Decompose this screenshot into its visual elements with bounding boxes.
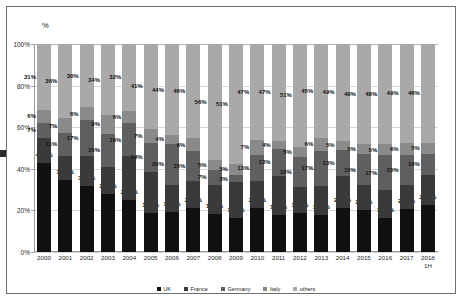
bar-column[interactable]: 41.7%12%7%6%31% <box>37 44 51 252</box>
bar-segment-germany[interactable]: 17% <box>314 151 328 187</box>
bar-segment-italy[interactable]: 4% <box>272 141 286 149</box>
bar-segment-uk[interactable]: 19.2% <box>293 213 307 252</box>
x-axis-tick-label: 2008 <box>208 254 222 280</box>
bar-segment-italy[interactable]: 6% <box>186 138 200 150</box>
bar-segment-france[interactable]: 13% <box>101 167 115 194</box>
bar-column[interactable]: 21.4%13%15%6%46% <box>186 44 200 252</box>
bar-segment-others[interactable]: 31% <box>37 44 51 110</box>
bar-column[interactable]: 18.9%20%14%7%41% <box>144 44 158 252</box>
y-axis-unit-label: % <box>42 21 49 30</box>
bar-segment-germany[interactable]: 15% <box>400 155 414 185</box>
bar-segment-france[interactable]: 14% <box>80 156 94 186</box>
bar-segment-uk[interactable]: 27.7% <box>101 194 115 252</box>
bar-segment-france[interactable]: 14% <box>314 186 328 215</box>
bar-column[interactable]: 24.9%21%16%6%32% <box>122 44 136 252</box>
bar-segment-label: 5% <box>369 147 378 153</box>
bar-segment-label: 51% <box>280 92 292 98</box>
legend-item[interactable]: UK <box>157 286 171 292</box>
bar-column[interactable]: 18.6%14%7%5%56% <box>208 44 222 252</box>
bar-segment-uk[interactable]: 21.9% <box>421 205 435 252</box>
bar-segment-others[interactable]: 51% <box>293 44 307 147</box>
legend-swatch <box>293 287 297 291</box>
bar-segment-france[interactable]: 13% <box>293 187 307 213</box>
bar-segment-uk[interactable]: 21.6% <box>250 208 264 252</box>
bar-segment-uk[interactable]: 20.7% <box>357 210 371 252</box>
bar-segment-germany[interactable]: 16% <box>122 123 136 156</box>
bar-stack: 19.2%13%15%5%51% <box>293 44 307 252</box>
bar-segment-label: 15% <box>173 163 185 169</box>
bar-segment-france[interactable]: 16% <box>336 176 350 208</box>
bar-segment-uk[interactable]: 18.2% <box>272 215 286 252</box>
bar-segment-label: 13% <box>237 165 249 171</box>
bar-segment-france[interactable]: 20% <box>144 172 158 213</box>
x-axis-tick-label: 2018 1H <box>421 254 435 280</box>
bar-segment-france[interactable]: 13% <box>186 181 200 208</box>
bar-segment-label: 4% <box>262 142 271 148</box>
bar-segment-others[interactable]: 46% <box>421 44 435 143</box>
bar-segment-france[interactable]: 12% <box>58 156 72 181</box>
legend-item[interactable]: Italy <box>263 286 280 292</box>
bar-segment-uk[interactable]: 18.9% <box>144 213 158 252</box>
bar-column[interactable]: 21.6%13%13%7%47% <box>250 44 264 252</box>
bar-segment-uk[interactable]: 16.4% <box>378 218 392 252</box>
bar-segment-uk[interactable]: 34.6% <box>58 180 72 252</box>
bar-segment-germany[interactable]: 17% <box>378 155 392 191</box>
bar-segment-france[interactable]: 15% <box>229 182 243 217</box>
bar-segment-uk[interactable]: 17.6% <box>314 215 328 252</box>
bar-segment-italy[interactable]: 7% <box>58 118 72 132</box>
bar-segment-italy[interactable]: 6% <box>37 110 51 123</box>
legend-item[interactable]: others <box>293 286 315 292</box>
bar-segment-italy[interactable]: 6% <box>80 107 94 120</box>
bar-segment-label: 20% <box>152 161 164 167</box>
bar-segment-france[interactable]: 14% <box>208 185 222 214</box>
bar-segment-france[interactable]: 12% <box>400 185 414 209</box>
bar-segment-label: 5% <box>219 166 228 172</box>
bar-segment-italy[interactable]: 6% <box>122 111 136 123</box>
bar-segment-uk[interactable]: 19.3% <box>165 212 179 252</box>
legend-label: Germany <box>227 286 250 292</box>
bar-column[interactable]: 21.9%14%10%5%46% <box>421 44 435 252</box>
bar-segment-label: 6% <box>177 142 186 148</box>
bar-segment-uk[interactable]: 22.6% <box>336 208 350 253</box>
gridline <box>34 252 438 253</box>
bar-segment-germany[interactable]: 14% <box>144 143 158 172</box>
bar-segment-uk[interactable]: 18.6% <box>208 214 222 252</box>
bar-segment-uk[interactable]: 41.7% <box>37 163 51 252</box>
bar-column[interactable]: 19.2%13%15%5%51% <box>293 44 307 252</box>
bar-column[interactable]: 19.3%13%20%4%44% <box>165 44 179 252</box>
bar-segment-germany[interactable]: 3% <box>229 175 243 182</box>
bar-segment-france[interactable]: 14% <box>421 175 435 205</box>
bar-segment-france[interactable]: 19% <box>272 176 286 215</box>
bar-segment-uk[interactable]: 31.4% <box>80 186 94 252</box>
bar-segment-germany[interactable]: 10% <box>421 154 435 175</box>
bar-segment-uk[interactable]: 21.5% <box>400 209 414 252</box>
bar-segment-france[interactable]: 21% <box>122 156 136 200</box>
y-axis-tick-mark <box>31 252 34 253</box>
x-axis-tick-label: 2012 <box>293 254 307 280</box>
legend-item[interactable]: France <box>184 286 208 292</box>
bar-stack: 41.7%12%7%6%31% <box>37 44 51 252</box>
x-axis-tick-label: 2017 <box>400 254 414 280</box>
bar-segment-label: 30% <box>67 73 79 79</box>
bar-segment-uk[interactable]: 14.7% <box>229 218 243 252</box>
bar-segment-uk[interactable]: 24.9% <box>122 200 136 252</box>
legend-item[interactable]: Germany <box>221 286 251 292</box>
bar-segment-france[interactable]: 13% <box>165 185 179 212</box>
bar-segment-uk[interactable]: 21.4% <box>186 208 200 252</box>
bar-segment-label: 17% <box>301 165 313 171</box>
y-axis-tick-label: 20% <box>17 207 30 214</box>
bar-segment-italy[interactable]: 5% <box>421 143 435 154</box>
bar-segment-others[interactable]: 32% <box>122 44 136 111</box>
x-axis-tick-label: 2009 <box>229 254 243 280</box>
bar-segment-italy[interactable]: 5% <box>293 147 307 157</box>
legend-swatch <box>184 287 188 291</box>
bar-segment-label: 13% <box>259 159 271 165</box>
plot-area: 0%20%40%60%80%100% 41.7%12%7%6%31%34.6%1… <box>34 44 438 252</box>
bar-segment-others[interactable]: 46% <box>186 44 200 138</box>
bar-segment-label: 7% <box>198 174 207 180</box>
bar-segment-france[interactable]: 13% <box>378 190 392 217</box>
bar-segment-germany[interactable]: 15% <box>293 157 307 187</box>
bar-segment-france[interactable]: 12% <box>357 185 371 210</box>
bar-segment-france[interactable]: 13% <box>250 181 264 208</box>
bar-segment-others[interactable]: 36% <box>58 44 72 118</box>
